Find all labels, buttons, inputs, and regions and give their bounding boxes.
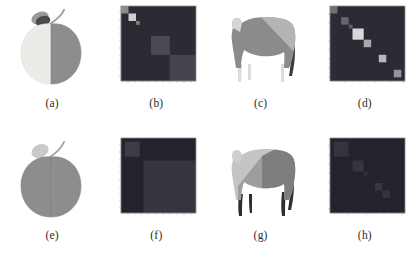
affinity-matrix-b	[112, 2, 200, 90]
affinity-matrix-f-art	[104, 132, 208, 224]
subfigure-h: (h)	[313, 132, 417, 264]
affinity-matrix-b-art	[104, 0, 208, 92]
matrix-wrap-d	[321, 2, 409, 90]
subfigure-e: (e)	[0, 132, 104, 264]
subfigure-c: (c)	[209, 0, 313, 132]
cow-leg-front2	[249, 194, 252, 213]
sublabel-d: (d)	[358, 98, 372, 110]
apple-stem	[50, 10, 64, 24]
affinity-matrix-d	[321, 2, 409, 90]
sublabel-g: (g)	[254, 230, 268, 242]
figure-row-bottom: (e)	[0, 132, 417, 264]
apple-stem	[50, 142, 64, 157]
sublabel-c: (c)	[254, 98, 267, 110]
affinity-matrix-d-art	[313, 0, 417, 92]
subfigure-g: (g)	[209, 132, 313, 264]
subfigure-f: (f)	[104, 132, 208, 264]
matrix-wrap-h	[321, 134, 409, 222]
apple-two-tone-art	[0, 0, 104, 92]
matrix-wrap-f	[112, 134, 200, 222]
subfigure-a: (a)	[0, 0, 104, 132]
figure-row-top: (a)	[0, 0, 417, 132]
sublabel-f: (f)	[150, 230, 162, 242]
apple-uniform	[12, 134, 92, 222]
affinity-matrix-h	[321, 134, 409, 222]
affinity-matrix-f	[112, 134, 200, 222]
sublabel-h: (h)	[358, 230, 372, 242]
subfigure-b: (b)	[104, 0, 208, 132]
apple-right-half	[51, 24, 81, 84]
matrix-wrap-b	[112, 2, 200, 90]
affinity-matrix-h-art	[313, 132, 417, 224]
cow-leg-front2	[248, 64, 251, 80]
cow-two-tone-art	[209, 0, 313, 92]
figure-grid: (a)	[0, 0, 417, 264]
cow-three-tone	[218, 134, 304, 222]
cow-three-tone-art	[209, 132, 313, 224]
subfigure-d: (d)	[313, 0, 417, 132]
sublabel-b: (b)	[149, 98, 163, 110]
sublabel-a: (a)	[45, 98, 58, 110]
cow-two-tone	[218, 2, 304, 90]
cow-leg-rear	[281, 64, 284, 82]
apple-uniform-art	[0, 132, 104, 224]
apple-two-tone	[12, 2, 92, 90]
apple-left-half	[21, 24, 51, 84]
sublabel-e: (e)	[45, 230, 58, 242]
